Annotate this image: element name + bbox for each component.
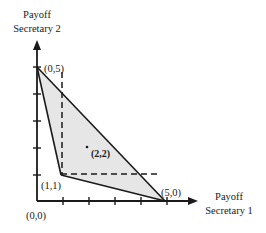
label-origin: (0,0)	[26, 210, 47, 222]
x-axis-title-line1: Payoff	[215, 191, 243, 202]
y-axis-title-line1: Payoff	[23, 9, 51, 20]
payoff-diagram: Payoff Secretary 2 Payoff Secretary 1 (0…	[0, 0, 266, 233]
label-2-2: (2,2)	[91, 148, 110, 160]
y-axis-arrow-icon	[33, 40, 41, 50]
label-0-5: (0,5)	[44, 63, 65, 75]
point-2-2-dot	[86, 146, 89, 149]
x-axis-title-line2: Secretary 1	[205, 205, 253, 216]
label-5-0: (5,0)	[161, 187, 182, 199]
label-1-1: (1,1)	[41, 180, 62, 192]
y-axis-title-line2: Secretary 2	[13, 23, 61, 34]
x-axis-arrow-icon	[188, 197, 198, 205]
